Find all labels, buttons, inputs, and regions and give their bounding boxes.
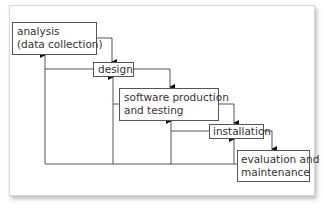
- stage-design-label: design: [98, 63, 129, 76]
- stage-evaluation-line1: evaluation and: [241, 153, 306, 166]
- stage-evaluation: evaluation and maintenance: [237, 150, 310, 182]
- stage-software-line1: software production: [124, 91, 214, 104]
- stage-software-line2: and testing: [124, 104, 214, 117]
- stage-evaluation-line2: maintenance: [241, 166, 306, 179]
- stage-design: design: [93, 62, 134, 77]
- stage-analysis: analysis (data collection): [12, 22, 97, 55]
- stage-analysis-line1: analysis: [17, 25, 92, 38]
- stage-software-production: software production and testing: [119, 88, 219, 121]
- stage-installation-label: installation: [213, 125, 260, 138]
- stage-installation: installation: [209, 124, 264, 139]
- stage-analysis-line2: (data collection): [17, 38, 92, 51]
